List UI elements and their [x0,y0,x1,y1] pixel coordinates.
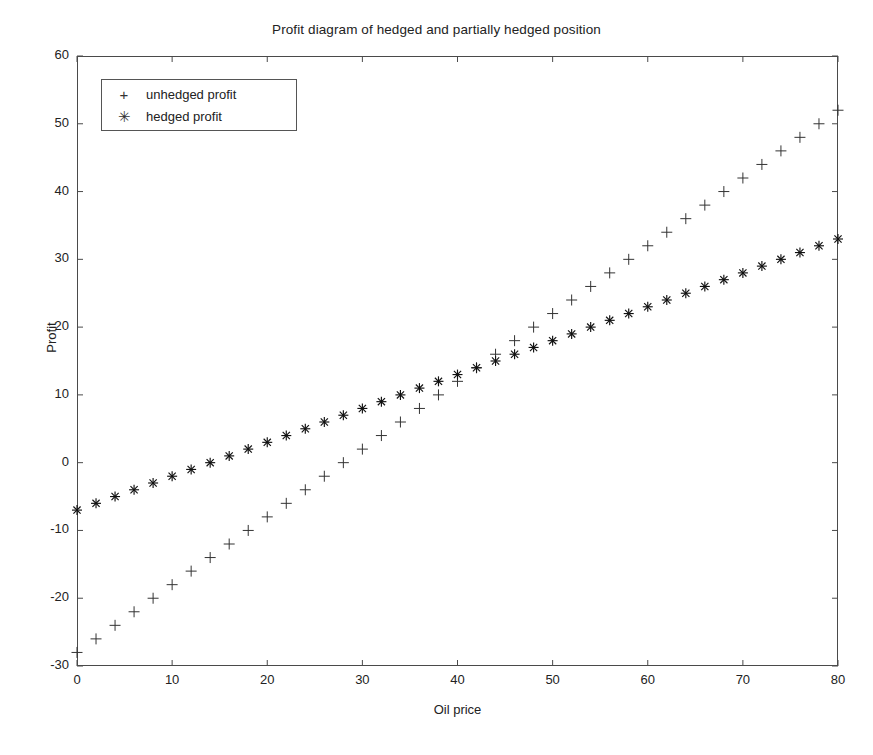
chart-title: Profit diagram of hedged and partially h… [0,22,873,37]
legend[interactable]: + unhedged profit ✳ hedged profit [101,79,297,131]
legend-item-unhedged[interactable]: + unhedged profit [102,83,298,105]
x-axis-label: Oil price [77,702,838,717]
y-tick-label: 40 [23,183,69,198]
asterisk-marker-icon: ✳ [102,109,146,124]
x-tick-label: 50 [533,672,573,687]
x-tick-label: 30 [342,672,382,687]
legend-label-unhedged: unhedged profit [146,87,236,102]
y-tick-label: -20 [23,589,69,604]
plus-marker-icon: + [102,87,146,102]
x-tick-label: 70 [723,672,763,687]
y-tick-label: 0 [23,454,69,469]
x-tick-label: 0 [57,672,97,687]
x-tick-label: 80 [818,672,858,687]
x-tick-label: 40 [438,672,478,687]
y-axis-label: Profit [44,278,59,398]
y-tick-label: 50 [23,115,69,130]
plot-axes-box [77,56,838,666]
y-tick-label: -10 [23,521,69,536]
x-tick-label: 10 [152,672,192,687]
y-tick-label: 30 [23,250,69,265]
legend-label-hedged: hedged profit [146,109,222,124]
x-tick-label: 60 [628,672,668,687]
y-tick-label: -30 [23,657,69,672]
legend-item-hedged[interactable]: ✳ hedged profit [102,105,298,127]
y-tick-label: 60 [23,47,69,62]
figure-canvas: Profit diagram of hedged and partially h… [0,0,873,755]
x-tick-label: 20 [247,672,287,687]
